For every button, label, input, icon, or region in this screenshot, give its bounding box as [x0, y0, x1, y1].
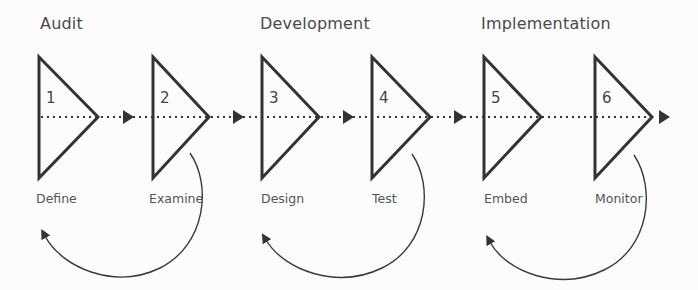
step-number: 6	[602, 89, 612, 107]
phase-title-implementation: Implementation	[481, 14, 611, 33]
arrow-right-icon	[454, 110, 465, 124]
step-label-define: Define	[36, 191, 77, 206]
step-number: 3	[269, 89, 279, 107]
step-label-test: Test	[372, 191, 397, 206]
process-diagram	[0, 0, 698, 290]
feedback-loops	[45, 153, 646, 279]
step-number: 2	[160, 89, 170, 107]
step-number: 1	[46, 89, 56, 107]
step-label-examine: Examine	[149, 191, 203, 206]
step-number: 5	[491, 89, 501, 107]
step-number: 4	[379, 89, 389, 107]
phase-title-audit: Audit	[40, 14, 83, 33]
arrow-right-icon	[343, 110, 354, 124]
arrow-right-icon	[659, 110, 670, 124]
arrow-right-icon	[123, 110, 134, 124]
feedback-loop-implementation	[490, 155, 646, 279]
step-label-design: Design	[261, 191, 304, 206]
phase-title-development: Development	[260, 14, 370, 33]
feedback-loop-audit	[45, 153, 202, 277]
step-label-embed: Embed	[484, 191, 528, 206]
feedback-loop-development	[266, 154, 424, 277]
step-label-monitor: Monitor	[595, 191, 643, 206]
arrow-right-icon	[233, 110, 244, 124]
